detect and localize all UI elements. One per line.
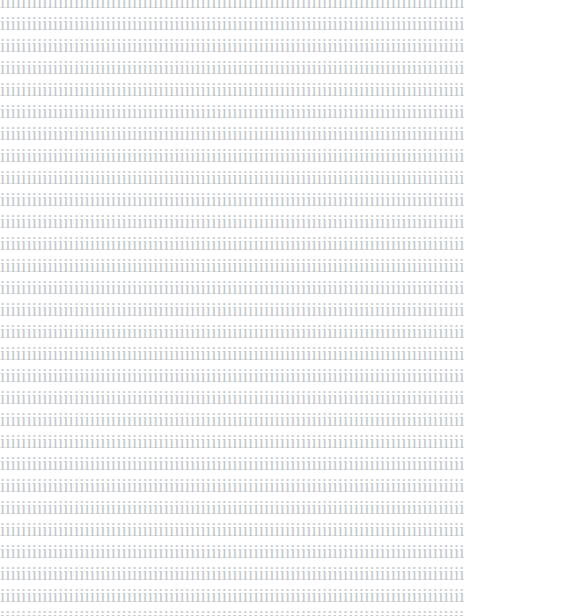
document-page: iiiiiiiiiiiiiiiiiiiiiiiiiiiiiiiiiiiiiiii… [0,0,571,616]
document-body-text: iiiiiiiiiiiiiiiiiiiiiiiiiiiiiiiiiiiiiiii… [0,0,571,616]
